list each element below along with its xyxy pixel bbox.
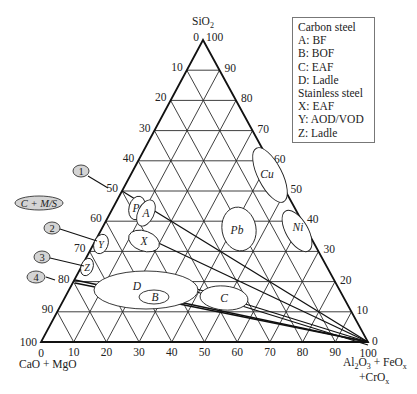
- label-Z: Z: [84, 262, 90, 273]
- bubble-3: 3: [34, 251, 50, 263]
- svg-text:40: 40: [166, 346, 178, 358]
- svg-text:20: 20: [155, 91, 167, 103]
- legend-item-z: Z: Ladle: [298, 127, 370, 140]
- svg-text:70: 70: [74, 242, 86, 254]
- svg-text:10: 10: [357, 304, 369, 316]
- ratio-annotation: C + M/S: [15, 196, 63, 210]
- svg-text:30: 30: [139, 122, 151, 134]
- svg-text:40: 40: [307, 213, 319, 225]
- svg-text:90: 90: [330, 346, 342, 358]
- svg-text:0: 0: [372, 335, 378, 347]
- svg-text:20: 20: [101, 346, 113, 358]
- svg-text:50: 50: [107, 182, 119, 194]
- svg-text:60: 60: [90, 212, 102, 224]
- svg-text:10: 10: [171, 61, 183, 73]
- legend-item-d: D: Ladle: [298, 74, 370, 87]
- operating-lines: [75, 191, 368, 345]
- legend-item-c: C: EAF: [298, 61, 370, 74]
- axis-title-sio2: SiO2: [192, 15, 214, 30]
- svg-text:100: 100: [20, 336, 38, 348]
- label-Ni: Ni: [292, 221, 304, 233]
- svg-text:4: 4: [33, 272, 39, 283]
- svg-text:10: 10: [68, 346, 80, 358]
- svg-text:80: 80: [58, 273, 70, 285]
- label-X: X: [139, 235, 148, 247]
- label-Pb: Pb: [230, 224, 244, 236]
- legend-item-x: X: EAF: [298, 100, 370, 113]
- svg-text:3: 3: [39, 252, 44, 263]
- label-P: P: [131, 202, 139, 214]
- svg-text:90: 90: [42, 303, 54, 315]
- legend-heading-carbon-steel: Carbon steel: [298, 21, 370, 34]
- legend-item-a: A: BF: [298, 34, 370, 47]
- svg-text:30: 30: [133, 346, 145, 358]
- legend-heading-stainless-steel: Stainless steel: [298, 87, 370, 100]
- legend-item-y: Y: AOD/VOD: [298, 113, 370, 126]
- bubble-4: 4: [27, 271, 45, 283]
- svg-text:80: 80: [241, 92, 253, 104]
- legend-item-b: B: BOF: [298, 47, 370, 60]
- label-D: D: [132, 280, 142, 292]
- label-A: A: [141, 207, 150, 219]
- svg-text:100: 100: [206, 31, 224, 43]
- regions: [78, 143, 318, 312]
- axis-title-cao-mgo: CaO + MgO: [19, 358, 77, 371]
- svg-text:40: 40: [123, 152, 135, 164]
- label-C: C: [220, 292, 228, 304]
- svg-text:C + M/S: C + M/S: [21, 198, 58, 209]
- axis-title-crox: +CrOx: [359, 371, 389, 386]
- svg-text:80: 80: [297, 346, 309, 358]
- axis-title-al2o3: Al2O3 + FeOx: [343, 356, 407, 371]
- label-Cu: Cu: [260, 168, 274, 180]
- svg-text:60: 60: [231, 346, 243, 358]
- label-B: B: [151, 291, 158, 303]
- bubble-1: 1: [73, 165, 89, 177]
- svg-text:20: 20: [340, 274, 352, 286]
- svg-text:2: 2: [49, 223, 54, 234]
- svg-text:70: 70: [264, 346, 276, 358]
- svg-text:1: 1: [78, 166, 83, 177]
- bubble-2: 2: [44, 222, 60, 234]
- svg-text:0: 0: [193, 31, 199, 43]
- svg-text:70: 70: [258, 123, 270, 135]
- legend: Carbon steel A: BF B: BOF C: EAF D: Ladl…: [292, 17, 375, 143]
- svg-text:50: 50: [291, 183, 303, 195]
- svg-text:30: 30: [324, 243, 336, 255]
- svg-text:90: 90: [225, 62, 237, 74]
- svg-text:50: 50: [199, 346, 211, 358]
